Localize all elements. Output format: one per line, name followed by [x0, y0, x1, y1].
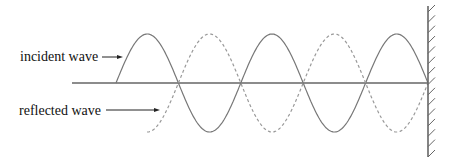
reflected-wave-label: reflected wave	[19, 104, 101, 118]
reflected-arrow	[106, 108, 160, 112]
wall	[428, 5, 435, 157]
incident-wave-label: incident wave	[20, 50, 98, 64]
diagram-canvas	[0, 0, 457, 163]
incident-arrow	[102, 55, 123, 59]
